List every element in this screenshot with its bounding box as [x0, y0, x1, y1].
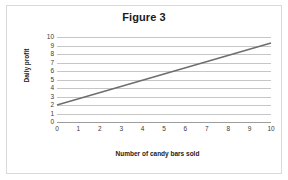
x-tick-label: 3: [111, 126, 131, 133]
x-tick-label: 7: [197, 126, 217, 133]
x-tick-label: 1: [68, 126, 88, 133]
y-tick-label: 0: [38, 119, 54, 126]
x-tick-label: 4: [133, 126, 153, 133]
x-axis-tick-labels: 0 1 2 3 4 5 6 7 8 9 10: [57, 126, 271, 138]
plot-area: [57, 37, 271, 122]
chart-title: Figure 3: [0, 11, 288, 23]
y-tick-label: 3: [38, 94, 54, 101]
y-tick-label: 4: [38, 85, 54, 92]
y-tick-label: 7: [38, 60, 54, 67]
x-axis-line: [57, 122, 271, 123]
x-axis-title: Number of candy bars sold: [40, 150, 275, 157]
x-tick-label: 8: [218, 126, 238, 133]
x-tick-label: 2: [90, 126, 110, 133]
daily-profit-line-series: [57, 37, 271, 122]
x-tick-label: 9: [240, 126, 260, 133]
y-tick-label: 10: [38, 34, 54, 41]
x-tick-label: 10: [261, 126, 281, 133]
y-tick-label: 8: [38, 51, 54, 58]
y-tick-label: 1: [38, 111, 54, 118]
y-axis-tick-labels: 10 9 8 7 6 5 4 3 2 1 0: [36, 37, 54, 122]
y-tick-label: 6: [38, 68, 54, 75]
y-tick-label: 9: [38, 43, 54, 50]
y-tick-label: 2: [38, 102, 54, 109]
figure-container: Figure 3 10 9 8 7 6 5 4 3 2 1 0 0 1 2 3: [0, 0, 288, 180]
x-tick-label: 0: [47, 126, 67, 133]
x-tick-label: 5: [154, 126, 174, 133]
y-tick-label: 5: [38, 77, 54, 84]
x-tick-label: 6: [175, 126, 195, 133]
y-axis-title: Daily profit: [23, 36, 30, 96]
